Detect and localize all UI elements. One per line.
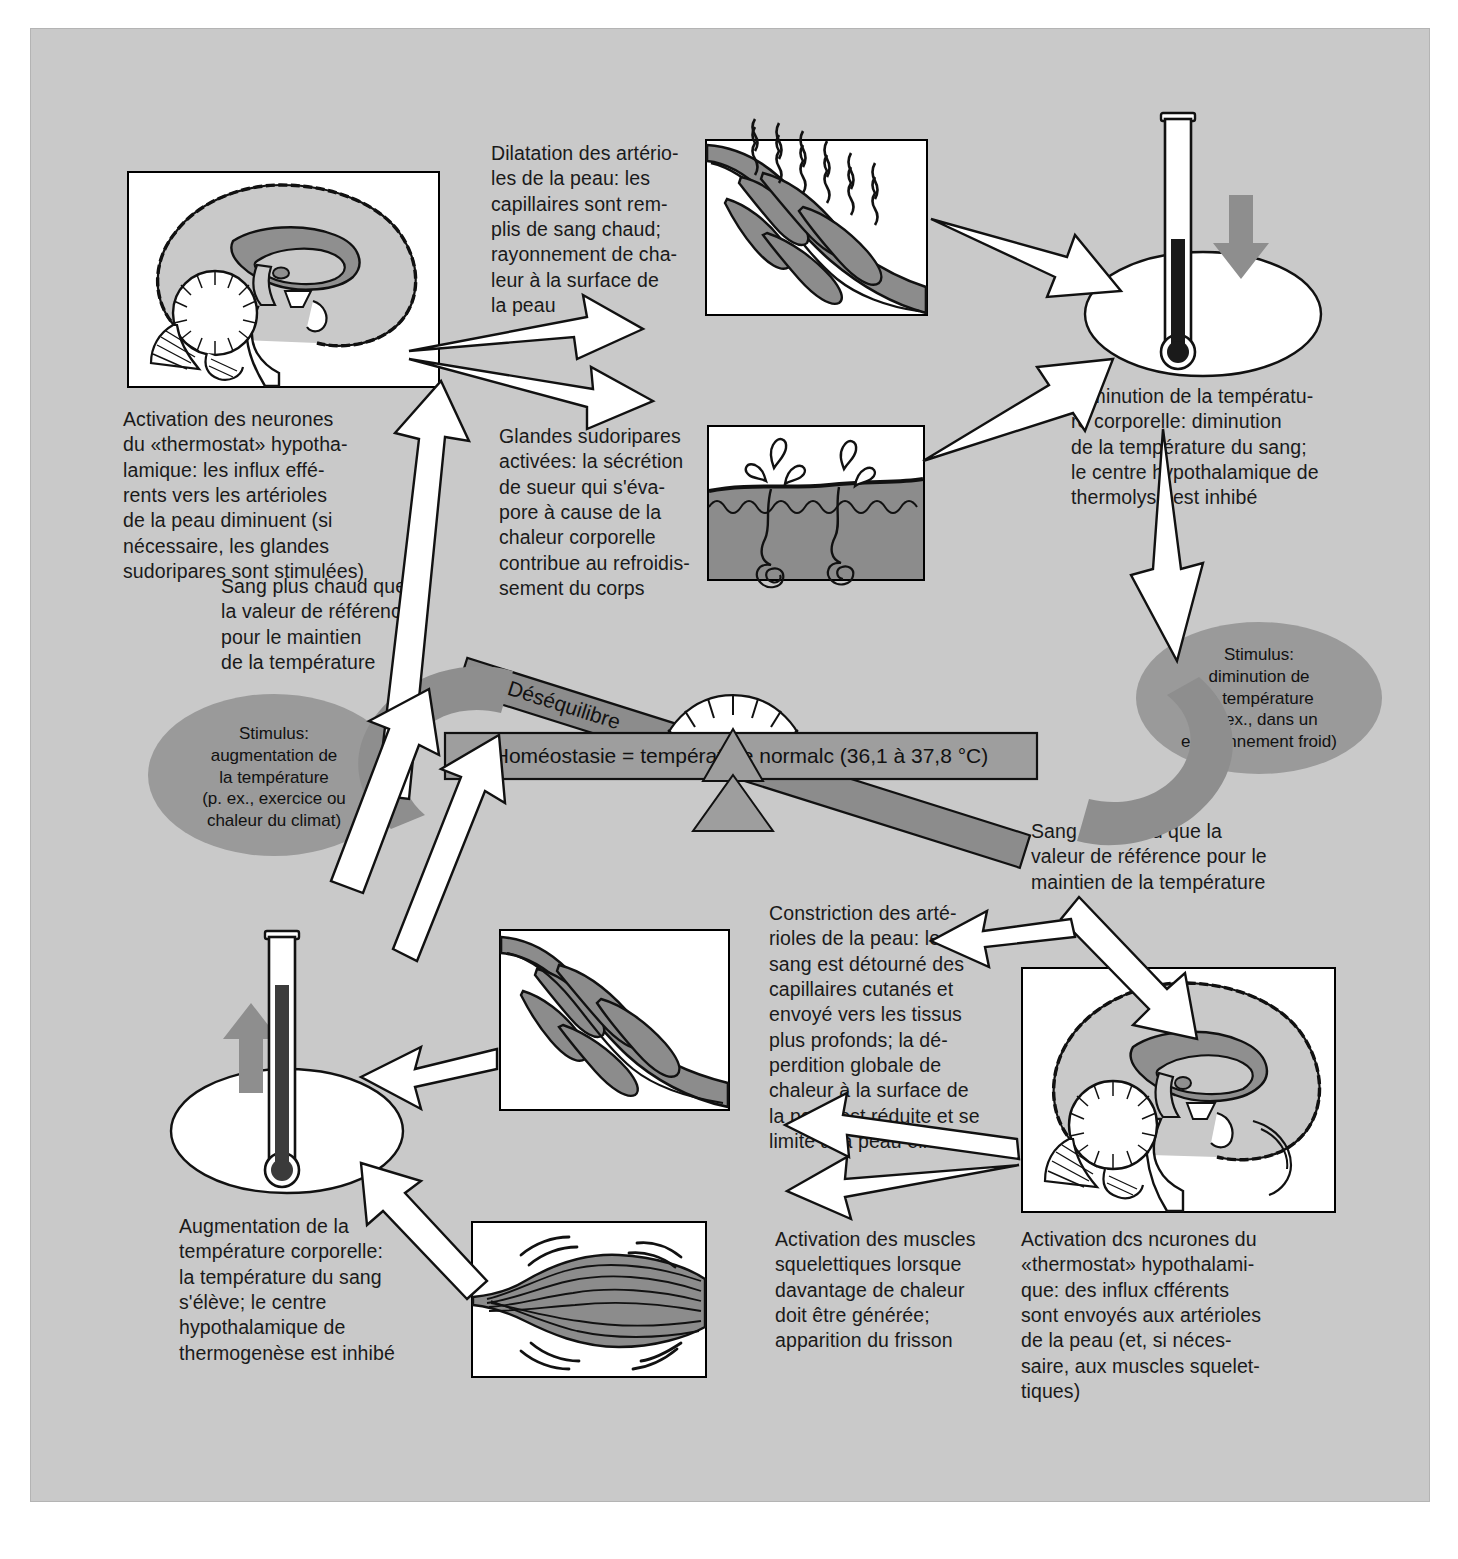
dilated-capillary-bed-icon [707, 141, 926, 314]
stimulus-hot-label: Stimulus: augmentation de la température… [148, 723, 400, 832]
sweat-gland-panel [707, 425, 925, 581]
shivering-caption: Activation des muscles squelettiques lor… [775, 1227, 1015, 1354]
brain-panel-bottom [1021, 967, 1336, 1213]
capillary-constricted-panel [499, 929, 730, 1111]
stimulus-cold-label: Stimulus: diminution de la température (… [1132, 644, 1386, 753]
thermometer-rising-group [169, 919, 419, 1209]
vasodilation-caption: Dilatation des artério- les de la peau: … [491, 141, 736, 318]
skeletal-muscle-icon [473, 1223, 705, 1376]
thermometer-falling-group [1083, 109, 1333, 389]
capillary-dilated-panel [705, 139, 928, 316]
blood-cold-label: Sang plus froid que la valeur de référen… [1031, 819, 1341, 895]
skin-sweat-gland-icon [709, 427, 923, 579]
diagram-canvas: Activation des neurones du «thermostat» … [30, 28, 1430, 1502]
vasoconstriction-caption: Constriction des arté- rioles de la peau… [769, 901, 1019, 1154]
hot-loop-result-caption: Diminution de la températu- re corporell… [1071, 384, 1411, 511]
cold-loop-result-caption: Augmentation de la température corporell… [179, 1214, 469, 1366]
figure-page: Activation des neurones du «thermostat» … [0, 0, 1458, 1559]
thermometer-rising-icon [169, 919, 419, 1209]
thermometer-falling-icon [1083, 109, 1333, 389]
balance-scale-icon: Déséquilibre Homéostasie = température n… [411, 569, 1071, 839]
brain-sagittal-icon [1023, 969, 1334, 1211]
brain-caption-top: Activation des neurones du «thermostat» … [123, 407, 453, 584]
brain-sagittal-icon [129, 173, 438, 386]
muscle-panel [471, 1221, 707, 1378]
constricted-capillary-bed-icon [501, 931, 728, 1109]
brain-caption-bottom: Activation dcs ncurones du «thermostat» … [1021, 1227, 1336, 1404]
brain-panel-top [127, 171, 440, 388]
balance-scale: Déséquilibre Homéostasie = température n… [411, 569, 1071, 839]
blood-hot-label: Sang plus chaud que la valeur de référen… [221, 574, 481, 675]
